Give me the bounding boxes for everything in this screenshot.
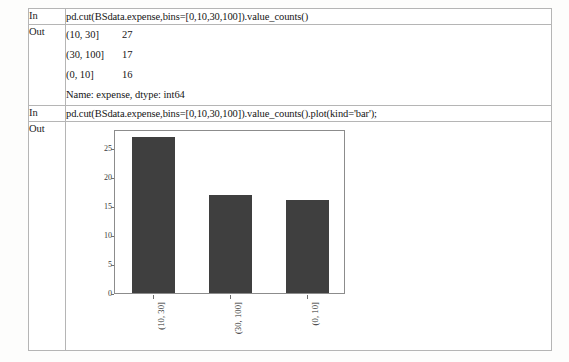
cell-label-in-2: In (29, 106, 66, 122)
code-input-1[interactable]: pd.cut(BSdata.expense,bins=[0,10,30,100]… (66, 9, 551, 24)
cell-body-out-1: (10, 30]27 (30, 100]17 (0, 10]16 Name: e… (66, 25, 552, 106)
bars-layer (115, 131, 344, 293)
notebook-row-out-2: Out 0510152025 (10, 30](30, 100](0, 10] (29, 122, 552, 351)
x-tick-label-0: (10, 30] (157, 302, 166, 330)
x-tick-label-2: (0, 10] (311, 302, 320, 325)
cell-label-in-1: In (29, 9, 66, 25)
output-count: 17 (122, 49, 132, 60)
output-bin: (10, 30] (66, 25, 122, 45)
cell-body-out-2: 0510152025 (10, 30](30, 100](0, 10] (66, 122, 552, 351)
notebook-row-in-2: In pd.cut(BSdata.expense,bins=[0,10,30,1… (29, 106, 552, 122)
output-line: (30, 100]17 (66, 45, 551, 65)
x-tick-mark-2 (307, 295, 308, 299)
notebook-table: In pd.cut(BSdata.expense,bins=[0,10,30,1… (28, 8, 552, 351)
output-bin: (0, 10] (66, 65, 122, 85)
y-axis: 0510152025 (94, 130, 112, 294)
y-tick-mark-0 (111, 294, 114, 295)
code-input-2[interactable]: pd.cut(BSdata.expense,bins=[0,10,30,100]… (66, 106, 551, 121)
bar-1 (209, 195, 251, 293)
output-dtype-footer: Name: expense, dtype: int64 (66, 85, 551, 105)
x-tick-mark-1 (230, 295, 231, 299)
output-bin: (30, 100] (66, 45, 122, 65)
x-tick-label-1: (30, 100] (234, 302, 243, 334)
bar-2 (286, 200, 328, 293)
cell-label-out-2: Out (29, 122, 66, 351)
cell-body-in-1[interactable]: pd.cut(BSdata.expense,bins=[0,10,30,100]… (66, 9, 552, 25)
bar-0 (132, 137, 174, 293)
bar-chart: 0510152025 (10, 30](30, 100](0, 10] (68, 122, 358, 346)
page-canvas: In pd.cut(BSdata.expense,bins=[0,10,30,1… (0, 0, 569, 362)
notebook-row-in-1: In pd.cut(BSdata.expense,bins=[0,10,30,1… (29, 9, 552, 25)
output-count: 27 (122, 29, 132, 40)
output-count: 16 (122, 69, 132, 80)
output-line: (10, 30]27 (66, 25, 551, 45)
notebook-row-out-1: Out (10, 30]27 (30, 100]17 (0, 10]16 Nam… (29, 25, 552, 106)
cell-body-in-2[interactable]: pd.cut(BSdata.expense,bins=[0,10,30,100]… (66, 106, 552, 122)
cell-label-out-1: Out (29, 25, 66, 106)
output-line: (0, 10]16 (66, 65, 551, 85)
plot-axes-frame (114, 130, 345, 294)
x-tick-mark-0 (153, 295, 154, 299)
